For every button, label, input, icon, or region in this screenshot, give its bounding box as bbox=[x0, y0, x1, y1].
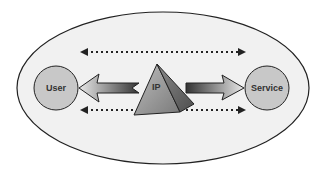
service-node: Service bbox=[245, 66, 289, 110]
diagram-canvas: IP User Service bbox=[0, 0, 322, 170]
ip-label: IP bbox=[152, 82, 161, 92]
service-label: Service bbox=[251, 83, 283, 93]
user-label: User bbox=[46, 83, 67, 93]
user-node: User bbox=[34, 66, 78, 110]
